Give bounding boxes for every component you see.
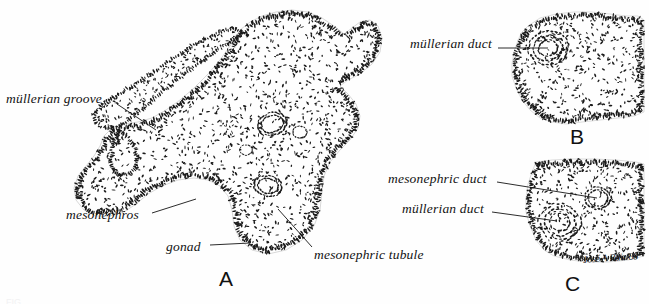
label-mullerian-duct-b: müllerian duct [410,37,492,51]
label-mullerian-groove: müllerian groove [6,92,102,106]
label-mesonephric-duct-c: mesonephric duct [388,172,487,186]
panel-c-drawing [525,158,646,263]
cropped-caption: FIG. [6,297,24,304]
panel-letter-c: C [565,273,580,294]
panel-b-epithelium-edge [512,12,645,125]
label-mesonephros: mesonephros [66,208,139,222]
panel-b-drawing [512,11,645,124]
panel-letter-b: B [570,126,584,147]
label-gonad: gonad [166,240,201,254]
leader-line-mesonephros [152,199,196,213]
leader-line-gonad [210,243,250,245]
figure-root: müllerian groovemesonephrosgonadmesoneph… [0,0,649,304]
leader-line-mesonephric-duct-c [497,182,597,198]
leader-line-mesonephric-tubule [278,209,312,247]
panel-letter-a: A [219,268,233,289]
leader-line-mullerian-duct-c [492,212,557,221]
label-mesonephric-tubule: mesonephric tubule [314,248,424,262]
panel-a-coelomic-flap [91,26,243,130]
leader-lines [117,48,597,247]
panel-a-duct-structures [239,111,308,197]
label-mullerian-duct-c: müllerian duct [402,202,484,216]
